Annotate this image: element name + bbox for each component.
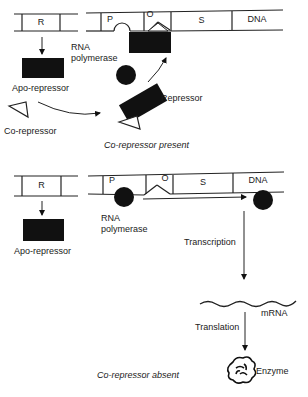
top-rna-polymerase-shape — [116, 65, 136, 85]
top-apo-repressor-shape — [22, 58, 64, 78]
top-rna-polymerase-label-1: RNA — [71, 42, 90, 53]
bottom-rna-polymerase-end — [253, 190, 273, 210]
mrna-strand — [200, 301, 296, 307]
bottom-segment-dna: DNA — [233, 175, 283, 185]
translation-label: Translation — [195, 322, 239, 333]
bottom-segment-o: O — [159, 173, 171, 183]
bottom-apo-repressor-label: Apo-repressor — [14, 246, 71, 257]
bottom-gene-r-label: R — [22, 180, 61, 190]
bottom-panel-caption: Co-repressor absent — [97, 370, 179, 380]
top-segment-p: P — [103, 14, 117, 24]
repressor-complex-shape — [119, 83, 167, 122]
diagram-canvas — [0, 0, 308, 397]
repressor-to-operator-arrow — [148, 58, 166, 82]
enzyme-label: Enzyme — [256, 366, 289, 377]
top-segment-o: O — [143, 9, 157, 19]
bound-repressor — [129, 32, 171, 53]
enzyme-shape — [228, 357, 256, 383]
bottom-rna-polymerase-start — [114, 187, 134, 207]
top-gene-r-label: R — [22, 17, 60, 27]
bottom-rna-polymerase-label-1: RNA — [101, 213, 120, 224]
repressor-co-repressor-triangle — [119, 116, 140, 129]
repressor-label: Repressor — [161, 93, 203, 104]
co-repressor-label: Co-repressor — [4, 126, 57, 137]
top-segment-s: S — [171, 15, 232, 25]
top-apo-repressor-label: Apo-repressor — [12, 83, 69, 94]
top-segment-dna: DNA — [232, 14, 282, 24]
bottom-apo-repressor-shape — [23, 219, 64, 241]
top-panel-caption: Co-repressor present — [104, 140, 189, 150]
mrna-label: mRNA — [261, 308, 288, 319]
co-repressor-shape — [9, 102, 28, 117]
transcription-label: Transcription — [184, 237, 236, 248]
bottom-segment-s: S — [173, 177, 233, 187]
bottom-segment-p: P — [105, 175, 119, 185]
polymerase-travel-arrow — [143, 197, 246, 199]
top-rna-polymerase-label-2: polymerase — [71, 53, 118, 64]
bottom-rna-polymerase-label-2: polymerase — [101, 224, 148, 235]
binding-arrow — [38, 102, 100, 114]
